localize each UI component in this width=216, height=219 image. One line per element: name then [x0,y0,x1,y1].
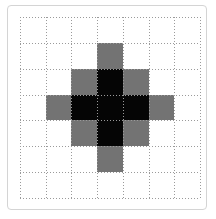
heatmap-cell [46,172,72,198]
heatmap-cell [97,17,123,43]
heatmap-cell [149,120,175,146]
heatmap-cell [20,17,46,43]
heatmap-cell [123,172,149,198]
heatmap-cell [46,17,72,43]
heatmap-cell [71,172,97,198]
heatmap-cell [71,17,97,43]
heatmap-cell [149,43,175,69]
heatmap-cell [20,146,46,172]
heatmap-cell [20,120,46,146]
heatmap-cell [174,17,200,43]
heatmap-cell [97,146,123,172]
heatmap-cell [97,69,123,95]
heatmap-cell [149,17,175,43]
heatmap-cell [174,172,200,198]
heatmap-cell [97,95,123,121]
heatmap-cell [46,95,72,121]
heatmap-cell [123,17,149,43]
heatmap-cell [46,120,72,146]
heatmap-cell [149,146,175,172]
heatmap-cell [71,95,97,121]
heatmap-cell [71,146,97,172]
heatmap-cell [149,69,175,95]
heatmap-cell [46,146,72,172]
heatmap-cell [20,69,46,95]
heatmap-cell [174,69,200,95]
heatmap-cell [149,95,175,121]
heatmap-cell [71,43,97,69]
heatmap-cell [46,43,72,69]
heatmap-cell [71,69,97,95]
heatmap-cell [123,69,149,95]
heatmap-cell [123,95,149,121]
heatmap-grid [20,17,200,198]
heatmap-cell [123,146,149,172]
heatmap-cell [174,120,200,146]
heatmap-cell [123,43,149,69]
heatmap-cell [97,172,123,198]
heatmap-cell [174,146,200,172]
heatmap-cell [71,120,97,146]
heatmap-cell [174,95,200,121]
heatmap-cell [20,95,46,121]
heatmap-cell [174,43,200,69]
heatmap-cell [97,120,123,146]
heatmap-cell [97,43,123,69]
plot-area [20,17,200,198]
heatmap-cell [20,172,46,198]
heatmap-cell [123,120,149,146]
heatmap-cell [149,172,175,198]
heatmap-cell [20,43,46,69]
heatmap-cell [46,69,72,95]
chart-canvas [0,0,216,219]
